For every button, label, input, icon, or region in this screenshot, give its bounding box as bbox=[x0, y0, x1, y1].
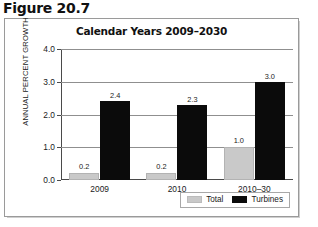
legend-label: Turbines bbox=[251, 195, 283, 204]
bar-group: 1.03.02010–30 bbox=[216, 49, 293, 180]
total-swatch bbox=[187, 196, 202, 203]
bar-value-label: 2.4 bbox=[110, 91, 120, 100]
bar-total-2009: 0.2 bbox=[69, 173, 99, 180]
y-axis-tick bbox=[57, 180, 61, 181]
bar-turbines-201030: 3.0 bbox=[255, 82, 285, 180]
bar-value-label: 1.0 bbox=[234, 136, 244, 145]
chart-frame: Calendar Years 2009–2030 ANNUAL PERCENT … bbox=[4, 18, 299, 217]
legend-item-turbines: Turbines bbox=[232, 195, 283, 204]
chart-title: Calendar Years 2009–2030 bbox=[5, 25, 298, 37]
figure-label: Figure 20.7 bbox=[3, 0, 90, 16]
bar-value-label: 3.0 bbox=[265, 72, 275, 81]
bar-turbines-2009: 2.4 bbox=[100, 101, 130, 180]
bar-total-201030: 1.0 bbox=[224, 147, 254, 180]
x-axis-tick-label: 2009 bbox=[90, 184, 109, 194]
legend-label: Total bbox=[206, 195, 223, 204]
bar-value-label: 0.2 bbox=[156, 162, 166, 171]
y-axis-tick-label: 2.0 bbox=[43, 110, 55, 120]
turbines-swatch bbox=[232, 196, 247, 203]
bar-value-label: 0.2 bbox=[79, 162, 89, 171]
y-axis-tick-label: 0.0 bbox=[43, 175, 55, 185]
y-axis-title: ANNUAL PERCENT GROWTH bbox=[21, 7, 30, 137]
plot-area: 0.01.02.03.04.0 0.22.420090.22.320101.03… bbox=[61, 49, 293, 180]
y-axis-tick-label: 1.0 bbox=[43, 142, 55, 152]
y-axis-tick-label: 4.0 bbox=[43, 44, 55, 54]
legend: TotalTurbines bbox=[180, 192, 290, 208]
legend-item-total: Total bbox=[187, 195, 223, 204]
bar-group: 0.22.42009 bbox=[61, 49, 138, 180]
y-axis-tick-label: 3.0 bbox=[43, 77, 55, 87]
bar-turbines-2010: 2.3 bbox=[177, 105, 207, 180]
bar-group: 0.22.32010 bbox=[138, 49, 215, 180]
bar-total-2010: 0.2 bbox=[146, 173, 176, 180]
bar-value-label: 2.3 bbox=[187, 95, 197, 104]
